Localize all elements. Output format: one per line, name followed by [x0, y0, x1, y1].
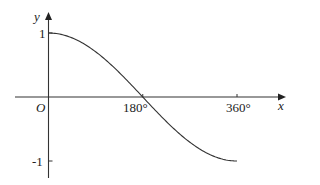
- origin-label: O: [36, 101, 45, 114]
- x-tick-label-180: 180°: [123, 101, 148, 114]
- y-axis-arrow-icon: [45, 12, 52, 20]
- x-axis-label: x: [278, 99, 284, 112]
- x-tick-label-360: 360°: [226, 101, 251, 114]
- y-tick-label-1: 1: [39, 27, 46, 40]
- y-axis-label: y: [34, 10, 40, 23]
- y-tick-label-neg1: -1: [32, 155, 43, 168]
